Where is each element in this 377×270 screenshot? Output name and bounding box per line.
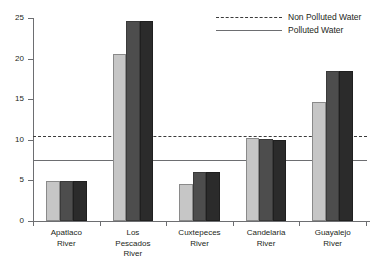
bar	[312, 102, 326, 221]
category-label-line: Pescados	[100, 239, 167, 250]
x-tick-0	[33, 221, 34, 226]
y-tick-label-0: 0	[0, 217, 24, 225]
x-tick-5	[366, 221, 367, 226]
x-tick-4	[299, 221, 300, 226]
bar	[46, 181, 60, 221]
category-label-line: Los	[100, 228, 167, 239]
bar	[326, 71, 340, 221]
bar	[273, 140, 287, 221]
category-label-line: River	[33, 239, 100, 250]
y-tick-label-15: 15	[0, 95, 24, 103]
category-label-line: River	[299, 239, 366, 250]
bar-group	[113, 18, 154, 221]
y-tick-label-20: 20	[0, 55, 24, 63]
bar	[339, 71, 353, 221]
y-tick-label-10: 10	[0, 136, 24, 144]
bar	[179, 184, 193, 221]
category-label: CuxtepecesRiver	[166, 228, 233, 249]
x-tick-3	[233, 221, 234, 226]
bar	[126, 21, 140, 221]
bar	[113, 54, 127, 221]
category-label-line: Cuxtepeces	[166, 228, 233, 239]
category-label-line: River	[233, 239, 300, 250]
bar	[140, 21, 154, 221]
bar-group	[246, 18, 287, 221]
y-tick-label-25: 25	[0, 14, 24, 22]
x-axis-line	[33, 221, 370, 222]
category-label: CandelariaRiver	[233, 228, 300, 249]
bar	[259, 139, 273, 221]
category-label: GuayalejoRiver	[299, 228, 366, 249]
category-label-line: Candelaria	[233, 228, 300, 239]
x-tick-2	[166, 221, 167, 226]
category-label-line: River	[166, 239, 233, 250]
bar-group	[179, 18, 220, 221]
category-label-line: River	[100, 249, 167, 260]
bar-chart: Non Polluted Water Polluted Water 051015…	[0, 0, 377, 270]
category-label-line: Apatlaco	[33, 228, 100, 239]
bar-group	[46, 18, 87, 221]
bar	[73, 181, 87, 221]
bar	[60, 181, 74, 221]
bar-group	[312, 18, 353, 221]
y-tick-label-5: 5	[0, 176, 24, 184]
plot-area	[33, 18, 366, 221]
category-label: ApatlacoRiver	[33, 228, 100, 249]
bar	[206, 172, 220, 221]
category-label-line: Guayalejo	[299, 228, 366, 239]
category-label: LosPescadosRiver	[100, 228, 167, 260]
bar	[193, 172, 207, 221]
x-tick-1	[100, 221, 101, 226]
bar	[246, 138, 260, 221]
